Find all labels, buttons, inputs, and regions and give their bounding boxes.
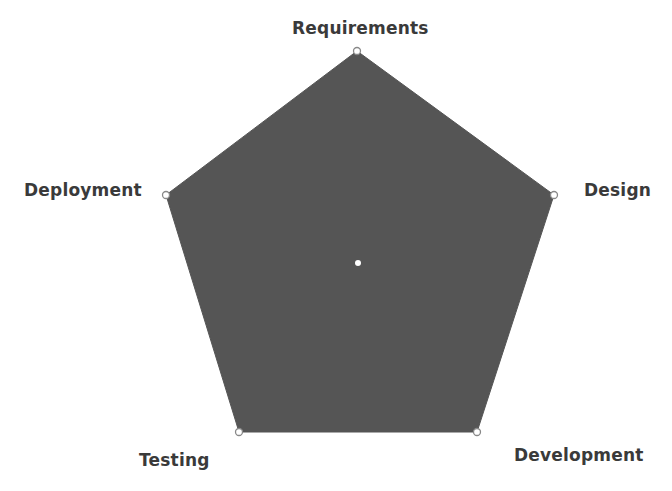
- series-polygon: [166, 51, 554, 432]
- vertex-marker-design: [551, 192, 558, 199]
- center-marker: [355, 260, 361, 266]
- axis-label-design: Design: [584, 180, 651, 200]
- vertex-marker-testing: [236, 429, 243, 436]
- axis-label-deployment: Deployment: [24, 180, 142, 200]
- vertex-marker-deployment: [163, 192, 170, 199]
- vertex-marker-development: [474, 429, 481, 436]
- axis-label-testing: Testing: [139, 450, 210, 470]
- radar-plot-area: [0, 0, 672, 491]
- radar-chart: Requirements Design Development Testing …: [0, 0, 672, 491]
- axis-label-requirements: Requirements: [292, 18, 429, 38]
- vertex-marker-requirements: [354, 48, 361, 55]
- axis-label-development: Development: [514, 445, 644, 465]
